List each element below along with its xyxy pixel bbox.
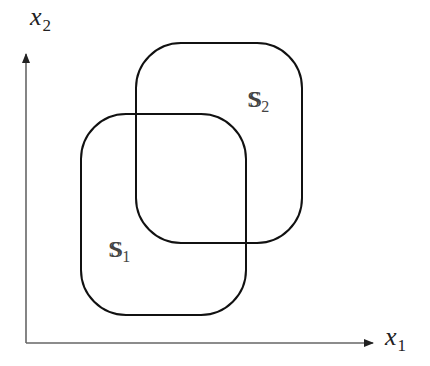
- set-s1-label-base: S: [108, 236, 121, 263]
- y-axis-label: x2: [30, 2, 51, 32]
- x-axis-label-base: x: [385, 322, 397, 351]
- set-s2-label-base: S: [247, 86, 260, 113]
- x-axis-label-subscript: 1: [398, 336, 407, 355]
- set-s1-label: S1: [108, 236, 130, 263]
- set-s2-label: S2: [247, 86, 269, 113]
- x-axis-label: x1: [385, 322, 406, 352]
- set-s1-label-subscript: 1: [122, 248, 130, 265]
- set-s2-label-subscript: 2: [261, 98, 269, 115]
- diagram-canvas: x2 x1 S2 S1: [0, 0, 430, 366]
- y-axis-label-subscript: 2: [43, 16, 52, 35]
- diagram-svg: [0, 0, 430, 366]
- set-s2-boundary: [136, 43, 302, 243]
- set-s1-boundary: [81, 114, 246, 315]
- y-axis-label-base: x: [30, 2, 42, 31]
